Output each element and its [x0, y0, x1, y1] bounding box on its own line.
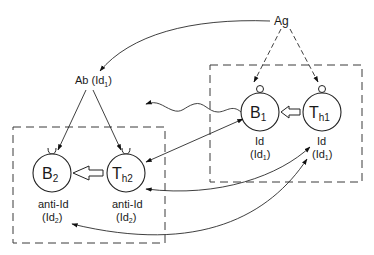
anti-idiotype-group-box	[13, 127, 165, 243]
ab-to-b2-arrow	[58, 90, 86, 150]
idiotype-network-diagram: Ag Ab (Id1) B1 Id (Id1) Th1 Id (Id1) B2 …	[0, 0, 374, 255]
th2-to-b2-help-arrow	[73, 166, 103, 180]
th1-to-b1-help-arrow	[281, 106, 300, 118]
svg-text:(Id1): (Id1)	[250, 148, 270, 161]
svg-text:Id: Id	[255, 135, 264, 147]
svg-text:(Id2): (Id2)	[42, 211, 62, 224]
svg-text:anti-Id: anti-Id	[38, 198, 69, 210]
cell-b2: B2 anti-Id (Id2)	[33, 154, 71, 224]
ag-to-b1-dashed-arrow	[254, 29, 281, 82]
svg-text:(Id1): (Id1)	[312, 148, 332, 161]
ag-to-ab-arrow	[100, 21, 270, 71]
b1-secretion-wavy-arrow	[146, 103, 241, 112]
cell-th1: Th1 Id (Id1)	[303, 93, 341, 161]
svg-text:(Id2): (Id2)	[116, 211, 136, 224]
svg-text:Id: Id	[317, 135, 326, 147]
ag-to-th1-dashed-arrow	[290, 29, 318, 82]
th1-receptor-icon	[319, 86, 326, 93]
antibody-label: Ab (Id1)	[75, 74, 112, 88]
b1-th2-interaction-arrow	[146, 119, 243, 162]
ab-to-th2-arrow	[93, 90, 121, 150]
b1-receptor-icon	[257, 86, 264, 93]
cell-th2: Th2 anti-Id (Id2)	[107, 154, 145, 224]
antigen-label: Ag	[274, 14, 289, 28]
th1-th2-interaction-arrow	[146, 147, 310, 191]
th2-receptor-icon	[122, 148, 130, 154]
cell-b1: B1 Id (Id1)	[241, 93, 279, 161]
svg-text:anti-Id: anti-Id	[112, 198, 143, 210]
b2-receptor-icon	[48, 148, 56, 154]
